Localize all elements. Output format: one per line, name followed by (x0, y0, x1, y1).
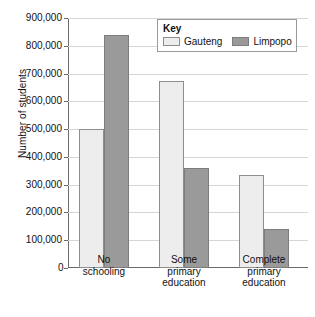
x-axis-label-1: Some primary education (162, 254, 205, 289)
y-axis-title: Number of students (17, 44, 28, 184)
x-axis-label-2: Complete primary education (242, 254, 285, 289)
legend-item-gauteng: Gauteng (163, 36, 222, 47)
y-axis-tick (64, 212, 68, 213)
y-axis-tick (64, 268, 68, 269)
legend-label: Limpopo (253, 36, 291, 47)
y-axis-tick-label: 200,000 (26, 207, 62, 217)
x-axis-label-0: No schooling (83, 254, 125, 277)
legend-swatch-icon (232, 37, 249, 46)
y-axis-tick (64, 46, 68, 47)
y-axis-tick (64, 18, 68, 19)
y-axis-tick-label: 400,000 (26, 152, 62, 162)
legend-label: Gauteng (184, 36, 222, 47)
bar-limpopo-1 (184, 168, 209, 268)
y-axis-tick (64, 240, 68, 241)
y-axis-tick (64, 129, 68, 130)
y-axis-tick-label: 500,000 (26, 124, 62, 134)
y-axis-tick (64, 101, 68, 102)
legend-swatch-icon (163, 37, 180, 46)
bar-gauteng-0 (79, 129, 104, 268)
y-axis-tick-label: 700,000 (26, 69, 62, 79)
y-axis-tick-label: 600,000 (26, 96, 62, 106)
y-axis-tick-label: 300,000 (26, 180, 62, 190)
plot-area: 100,000200,000300,000400,000500,000600,0… (68, 18, 308, 268)
y-axis-tick (64, 74, 68, 75)
bar-limpopo-0 (104, 35, 129, 268)
y-axis-zero-label: 0 (58, 262, 64, 273)
y-axis-tick-label: 900,000 (26, 13, 62, 23)
legend: Key GautengLimpopo (157, 19, 297, 52)
y-axis-tick-label: 800,000 (26, 41, 62, 51)
legend-title: Key (163, 23, 291, 34)
legend-items: GautengLimpopo (163, 36, 291, 47)
y-axis-tick-label: 100,000 (26, 235, 62, 245)
y-axis-line (68, 18, 69, 268)
legend-item-limpopo: Limpopo (232, 36, 291, 47)
bar-gauteng-1 (159, 81, 184, 269)
y-axis-tick (64, 157, 68, 158)
y-axis-tick (64, 185, 68, 186)
bar-chart: Number of students 100,000200,000300,000… (0, 0, 315, 317)
